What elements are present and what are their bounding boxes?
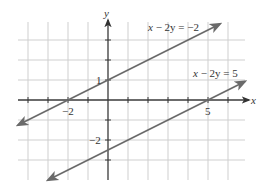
eq1-rest: − 2y = −2	[153, 21, 199, 33]
y-tick-label-1: 1	[96, 74, 102, 86]
equation-label-2: x − 2y = 5	[192, 67, 238, 79]
grid	[18, 22, 245, 180]
y-axis-label: y	[103, 7, 109, 19]
line-x-minus-2y-eq-5	[48, 82, 245, 181]
eq2-rest: − 2y = 5	[198, 67, 238, 79]
equation-label-1: x − 2y = −2	[147, 21, 199, 33]
x-tick-label-neg2: −2	[62, 105, 74, 117]
x-tick-label-5: 5	[205, 105, 211, 117]
y-tick-label-neg2: −2	[89, 134, 101, 146]
coordinate-plane: y x −2 5 1 −2 x − 2y = −2 x − 2y = 5	[0, 0, 261, 193]
x-axis-label: x	[250, 94, 256, 106]
